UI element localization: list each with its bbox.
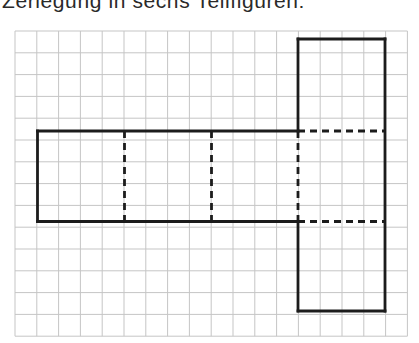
cube-net-diagram	[0, 0, 419, 343]
worksheet-page: Zerlegung in sechs Teilfiguren:	[0, 0, 419, 343]
